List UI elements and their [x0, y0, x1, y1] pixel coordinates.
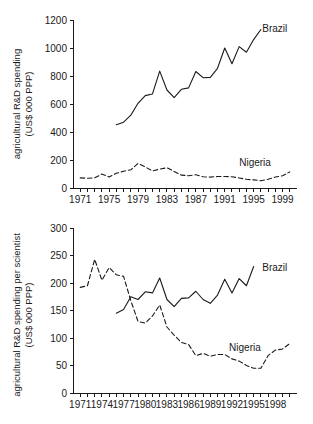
chart-bottom-series: BrazilNigeria	[80, 259, 290, 368]
y-tick-label: 50	[56, 360, 68, 371]
series-label-brazil: Brazil	[262, 262, 287, 273]
y-axis-title-line1: agricultural R&D spending per scientist	[11, 233, 22, 397]
x-tick-label: 1971	[69, 399, 92, 410]
x-tick-label: 1998	[264, 399, 287, 410]
series-line-brazil	[116, 267, 253, 314]
y-tick-label: 150	[50, 305, 67, 316]
y-axis-title-line1: agricultural R&D spending	[11, 49, 22, 159]
y-tick-label: 300	[50, 223, 67, 234]
chart-bottom-svg: agricultural R&D spending per scientist …	[0, 205, 313, 424]
y-tick-label: 600	[50, 99, 67, 110]
x-tick-label: 1977	[112, 399, 135, 410]
x-tick-label: 1974	[91, 399, 114, 410]
x-tick-label: 1989	[199, 399, 222, 410]
x-tick-label: 1995	[243, 399, 266, 410]
chart-agricultural-rd-spending: agricultural R&D spending (US$ 000 PPP) …	[0, 0, 313, 212]
chart-bottom-y-axis-title: agricultural R&D spending per scientist …	[11, 233, 34, 397]
x-tick-label: 1987	[185, 194, 208, 205]
x-tick-label: 1980	[134, 399, 157, 410]
x-tick-label: 1999	[271, 194, 294, 205]
y-tick-label: 800	[50, 71, 67, 82]
x-tick-label: 1986	[177, 399, 200, 410]
y-tick-label: 250	[50, 250, 67, 261]
y-tick-label: 200	[50, 155, 67, 166]
figure-container: agricultural R&D spending (US$ 000 PPP) …	[0, 0, 313, 424]
chart-bottom-axes: 0501001502002503001971197419771980198319…	[50, 223, 297, 411]
x-tick-label: 1992	[221, 399, 244, 410]
x-tick-label: 1995	[243, 194, 266, 205]
y-tick-label: 0	[61, 183, 67, 194]
series-label-brazil: Brazil	[262, 23, 287, 34]
x-tick-label: 1979	[127, 194, 150, 205]
series-label-nigeria: Nigeria	[229, 342, 261, 353]
chart-top-svg: agricultural R&D spending (US$ 000 PPP) …	[0, 0, 313, 212]
y-axis-title-line2: (US$ 000 PPP)	[23, 72, 34, 137]
y-tick-label: 1200	[45, 15, 68, 26]
y-tick-label: 200	[50, 278, 67, 289]
chart-top-axes: 0200400600800100012001971197519791983198…	[45, 15, 297, 206]
y-tick-label: 400	[50, 127, 67, 138]
chart-top-y-axis-title: agricultural R&D spending (US$ 000 PPP)	[11, 49, 34, 159]
x-tick-label: 1971	[69, 194, 92, 205]
x-tick-label: 1975	[98, 194, 121, 205]
y-axis-title-line2: (US$ 000 PPP)	[23, 283, 34, 348]
chart-top-series: BrazilNigeria	[80, 23, 290, 181]
y-tick-label: 1000	[45, 43, 68, 54]
x-tick-label: 1983	[156, 399, 179, 410]
x-tick-label: 1991	[214, 194, 237, 205]
y-tick-label: 100	[50, 333, 67, 344]
series-line-brazil	[116, 30, 261, 125]
chart-agricultural-rd-spending-per-scientist: agricultural R&D spending per scientist …	[0, 205, 313, 424]
x-tick-label: 1983	[156, 194, 179, 205]
series-label-nigeria: Nigeria	[239, 157, 271, 168]
y-tick-label: 0	[61, 388, 67, 399]
